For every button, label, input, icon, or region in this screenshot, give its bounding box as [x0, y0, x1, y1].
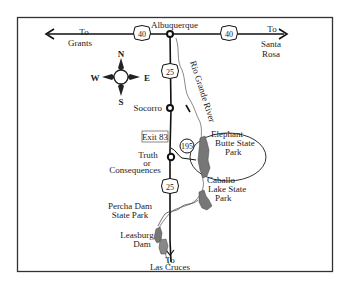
i40-east-shield: 40 [221, 26, 238, 41]
leasburg-label-2: Dam [133, 239, 151, 249]
svg-text:40: 40 [138, 30, 146, 39]
svg-text:25: 25 [166, 183, 174, 192]
to-grants-label: To [79, 27, 89, 37]
to-las-cruces-label-2: Las Cruces [150, 262, 191, 272]
i25-south-shield: 25 [162, 179, 179, 194]
to-santa-rosa-label-2: Santa [261, 39, 281, 49]
socorro-marker [167, 105, 173, 111]
exit-label: Exit 83 [142, 132, 169, 142]
svg-text:W: W [91, 73, 100, 83]
truth-or-consequences-marker [168, 154, 174, 160]
to-grants-label-2: Grants [68, 38, 92, 48]
svg-text:N: N [118, 49, 125, 59]
route-map: 40 40 25 25 195 Exit 83 N S W E Albuquer… [0, 0, 348, 290]
svg-text:S: S [118, 97, 123, 107]
nm195-shield: 195 [180, 139, 194, 153]
to-santa-rosa-label: To [267, 24, 277, 34]
svg-text:25: 25 [166, 68, 174, 77]
consequences-label: Consequences [109, 165, 161, 175]
i40-west-shield: 40 [134, 26, 151, 41]
albuquerque-label: Albuquerque [151, 20, 198, 30]
albuquerque-marker [167, 31, 173, 37]
leasburg-dam-lake [159, 239, 168, 254]
percha-dam-label-2: State Park [112, 210, 149, 220]
svg-text:40: 40 [225, 30, 233, 39]
svg-text:195: 195 [181, 142, 193, 151]
caballo-label-3: Park [215, 193, 232, 203]
i25-north-shield: 25 [162, 64, 179, 79]
svg-text:E: E [144, 73, 150, 83]
socorro-label: Socorro [134, 103, 163, 113]
elephant-butte-label-3: Park [225, 147, 242, 157]
to-santa-rosa-label-3: Rosa [262, 49, 280, 59]
map-frame [18, 18, 333, 272]
